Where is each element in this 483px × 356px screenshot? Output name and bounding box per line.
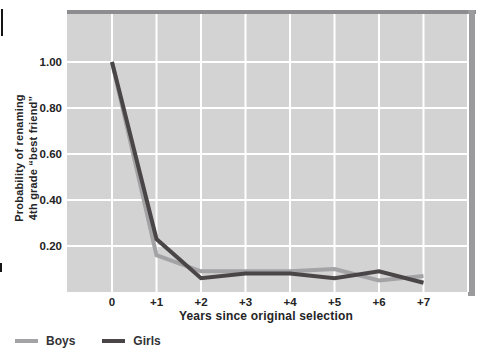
y-tick-label: 0.40 — [40, 194, 62, 206]
legend-item-girls: Girls — [102, 334, 160, 348]
y-axis-title-line1: Probability of renaming — [13, 94, 27, 221]
legend-item-boys: Boys — [15, 334, 75, 348]
x-tick-label: 0 — [109, 296, 115, 308]
x-tick-label: +3 — [239, 296, 252, 308]
textbook-chart-figure: 0.200.400.600.801.000+1+2+3+4+5+6+7Years… — [0, 0, 483, 356]
x-tick-label: +2 — [194, 296, 207, 308]
y-tick-label: 0.80 — [40, 102, 62, 114]
x-tick-label: +6 — [372, 296, 385, 308]
frame-right-edge — [468, 10, 475, 296]
girls-line-swatch — [102, 339, 125, 343]
legend-label-boys: Boys — [46, 334, 75, 348]
y-tick-label: 0.60 — [40, 148, 62, 160]
y-axis-title-line2: 4th grade “best friend” — [27, 94, 41, 221]
legend: Boys Girls — [15, 334, 161, 348]
y-tick-label: 0.20 — [40, 240, 62, 252]
x-tick-label: +4 — [283, 296, 297, 308]
boys-line-swatch — [15, 339, 38, 343]
page-edge-artifact — [1, 9, 3, 36]
chart-svg: 0.200.400.600.801.000+1+2+3+4+5+6+7Years… — [0, 0, 483, 356]
x-tick-label: +1 — [150, 296, 164, 308]
y-tick-label: 1.00 — [40, 56, 62, 68]
x-tick-label: +7 — [417, 296, 430, 308]
frame-top-edge — [67, 10, 476, 14]
page-edge-artifact — [0, 263, 2, 272]
x-tick-label: +5 — [328, 296, 342, 308]
legend-label-girls: Girls — [133, 334, 160, 348]
y-axis-title: Probability of renaming 4th grade “best … — [13, 94, 41, 221]
x-axis-title: Years since original selection — [179, 309, 353, 323]
